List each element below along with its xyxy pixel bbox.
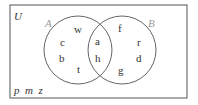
element-h: h — [95, 52, 101, 64]
venn-diagram: U A B w c b t a h f r d g p m z — [0, 0, 198, 105]
element-t: t — [77, 63, 80, 75]
element-c: c — [60, 36, 65, 48]
element-b: b — [59, 52, 65, 64]
outside-elements: p m z — [13, 84, 43, 96]
element-f: f — [118, 22, 122, 34]
set-a-label: A — [44, 17, 52, 29]
element-d: d — [136, 52, 142, 64]
set-b-label: B — [148, 17, 155, 29]
element-g: g — [118, 64, 124, 76]
element-w: w — [74, 23, 82, 35]
universe-label: U — [14, 10, 23, 22]
element-r: r — [137, 36, 141, 48]
element-a: a — [95, 35, 100, 47]
